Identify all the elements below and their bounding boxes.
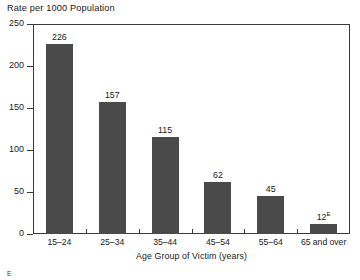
x-axis-title: Age Group of Victim (years) (33, 251, 350, 261)
bar-value-superscript: E (326, 211, 330, 217)
x-axis-tick-label: 35–44 (135, 237, 195, 248)
y-axis-tick-label: 250 (0, 18, 24, 29)
plot-surface (33, 24, 350, 234)
bar-value-label: 12E (299, 212, 349, 222)
y-axis-tick-label: 0 (0, 228, 24, 239)
y-axis-tick-label: 200 (0, 60, 24, 71)
x-axis-tick-mark (86, 229, 87, 234)
y-axis-tick-label: 150 (0, 102, 24, 113)
x-axis-tick-label: 55–64 (241, 237, 301, 248)
bar-value-label: 45 (246, 184, 296, 194)
y-axis-tick-label: 100 (0, 144, 24, 155)
bar (152, 137, 179, 234)
bar-chart-figure: Rate per 1000 Population 050100150200250… (0, 0, 360, 280)
x-axis-tick-mark (244, 229, 245, 234)
x-axis-tick-label: 45–54 (188, 237, 248, 248)
footnote-marker: E (7, 270, 11, 278)
bar-value-label: 226 (34, 32, 84, 42)
bar (99, 102, 126, 234)
x-axis-tick-label: 65 and over (294, 237, 354, 248)
bar (257, 196, 284, 234)
y-axis-tick-label: 50 (0, 186, 24, 197)
bar (204, 182, 231, 234)
x-axis-tick-mark (139, 229, 140, 234)
bar (310, 224, 337, 234)
bar (46, 44, 73, 234)
bar-value-label: 115 (140, 125, 190, 135)
x-axis-tick-label: 15–24 (29, 237, 89, 248)
bar-value-label: 62 (193, 170, 243, 180)
x-axis-tick-mark (297, 229, 298, 234)
x-axis-tick-label: 25–34 (82, 237, 142, 248)
bar-value-label: 157 (87, 90, 137, 100)
x-axis-tick-mark (192, 229, 193, 234)
